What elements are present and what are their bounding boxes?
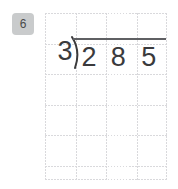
problem-number-label: 6 xyxy=(20,18,27,30)
dividend-digit: 5 xyxy=(134,40,165,74)
problem-number-badge: 6 xyxy=(12,13,34,35)
dividend-digits: 2 8 5 xyxy=(75,40,164,74)
dividend-digit: 2 xyxy=(75,40,103,74)
long-division-expression: 3 2 8 5 xyxy=(45,13,167,180)
dividend-digit: 8 xyxy=(103,40,134,74)
worksheet-canvas: 6 3 xyxy=(0,0,178,189)
